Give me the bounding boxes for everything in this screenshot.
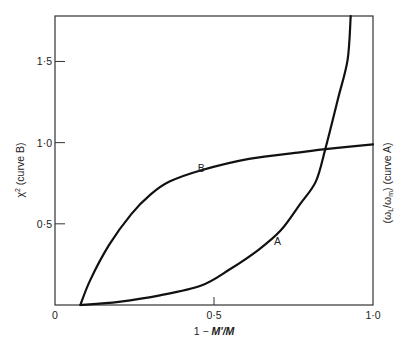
y-tick-label: 1·5 [37, 55, 52, 67]
x-tick-label: 0·5 [206, 309, 221, 321]
curve-b [80, 144, 373, 305]
x-axis-label: 1 − M'/M [194, 325, 235, 337]
y-tick-label: 0·5 [37, 218, 52, 230]
chart: 0·51·01·5 00·51·0 B A 1 − M'/M χ2 (curve… [0, 0, 404, 342]
curve-a-label: A [274, 235, 281, 247]
y-axis-ticks: 0·51·01·5 [37, 55, 65, 229]
curve-a [80, 16, 350, 305]
plot-frame [55, 16, 373, 305]
x-tick-label: 1·0 [365, 309, 380, 321]
x-tick-label: 0 [52, 309, 58, 321]
y-axis-right-label: (ωL/ωm) (curve A) [381, 142, 394, 223]
x-axis-ticks: 00·51·0 [52, 297, 381, 321]
y-axis-left-label: χ2 (curve B) [14, 143, 26, 198]
y-tick-label: 1·0 [37, 137, 52, 149]
curve-b-label: B [198, 162, 205, 174]
